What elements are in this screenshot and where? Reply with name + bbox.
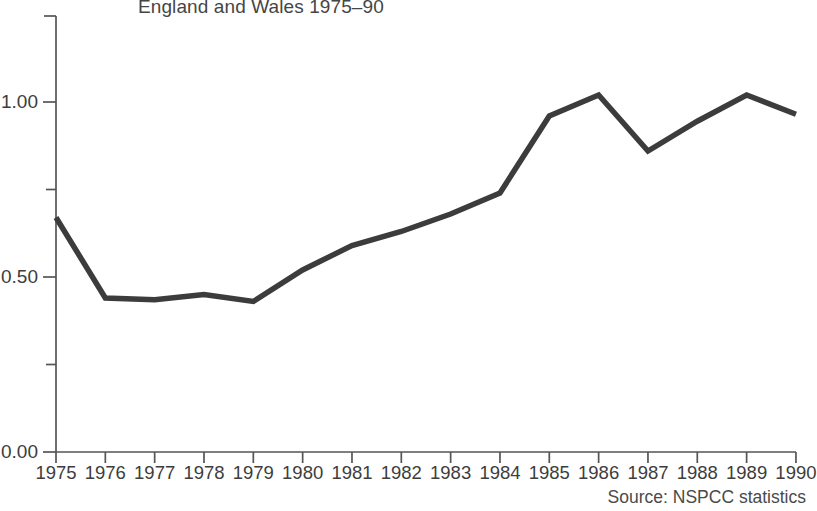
chart-tick-marks [43,102,796,463]
x-axis-tick-label: 1989 [726,462,767,484]
x-axis-tick-label: 1987 [627,462,668,484]
y-axis-tick-label: 0.00 [0,441,38,463]
y-axis-tick-label: 0.50 [0,266,38,288]
x-axis-tick-label: 1983 [430,462,471,484]
x-axis-tick-label: 1976 [85,462,126,484]
x-axis-tick-label: 1977 [134,462,175,484]
source-note: Source: NSPCC statistics [608,487,806,508]
chart-axes [44,16,796,452]
x-axis-tick-label: 1985 [529,462,570,484]
x-axis-tick-label: 1986 [578,462,619,484]
x-axis-tick-label: 1980 [282,462,323,484]
x-axis-tick-label: 1988 [677,462,718,484]
x-axis-tick-label: 1979 [233,462,274,484]
data-series-line [56,95,796,302]
x-axis-tick-label: 1990 [775,462,816,484]
chart-title: England and Wales 1975–90 [138,0,384,18]
x-axis-tick-label: 1981 [331,462,372,484]
x-axis-tick-label: 1975 [35,462,76,484]
x-axis-tick-label: 1984 [479,462,520,484]
x-axis-tick-label: 1982 [381,462,422,484]
x-axis-tick-label: 1978 [183,462,224,484]
y-axis-tick-label: 1.00 [0,91,38,113]
